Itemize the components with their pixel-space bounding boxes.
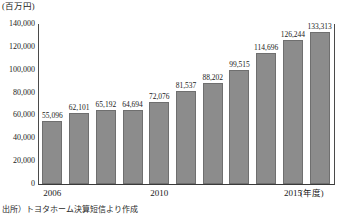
y-axis-tick-label: 20,000: [1, 157, 35, 165]
bar-rect: [256, 53, 276, 184]
bar-item: 126,244: [283, 24, 303, 184]
bar-series: 55,09662,10165,19264,69472,07681,53788,2…: [39, 24, 333, 184]
y-axis-tick-label: 140,000: [1, 20, 35, 28]
bar-rect: [283, 40, 303, 184]
bar-rect: [42, 121, 62, 184]
bar-rect: [203, 83, 223, 184]
bar-item: 55,096: [42, 24, 62, 184]
y-axis-tick-label: 40,000: [1, 134, 35, 142]
bar-item: 62,101: [69, 24, 89, 184]
bar-value-label: 126,244: [281, 31, 305, 39]
bar-value-label: 62,101: [69, 104, 90, 112]
bar-chart-figure: (百万円) 140,000120,000100,00080,00060,0004…: [0, 0, 343, 214]
x-axis-unit-label: (年度): [300, 188, 324, 198]
bar-value-label: 65,192: [96, 101, 117, 109]
y-axis-tick-label: 120,000: [1, 43, 35, 51]
y-axis-tick-label: 0: [1, 180, 35, 188]
bar-value-label: 72,076: [149, 93, 170, 101]
bar-value-label: 64,694: [122, 101, 143, 109]
bar-item: 72,076: [149, 24, 169, 184]
bar-item: 65,192: [96, 24, 116, 184]
bar-item: 81,537: [176, 24, 196, 184]
bar-rect: [69, 113, 89, 184]
y-axis-unit-label: (百万円): [2, 1, 35, 11]
y-axis-tick-label: 60,000: [1, 111, 35, 119]
bar-item: 88,202: [203, 24, 223, 184]
x-axis-tick-label: 2006: [43, 188, 61, 198]
bar-value-label: 81,537: [176, 82, 197, 90]
bar-rect: [149, 102, 169, 184]
bar-item: 114,696: [256, 24, 276, 184]
bar-value-label: 55,096: [42, 112, 63, 120]
bar-item: 133,313: [310, 24, 330, 184]
bar-rect: [96, 110, 116, 185]
bar-item: 64,694: [123, 24, 143, 184]
bar-rect: [123, 110, 143, 184]
bar-value-label: 133,313: [307, 23, 331, 31]
bar-value-label: 99,515: [229, 61, 250, 69]
bar-value-label: 88,202: [202, 74, 223, 82]
bar-rect: [176, 91, 196, 184]
bar-value-label: 114,696: [254, 44, 278, 52]
bar-rect: [229, 70, 249, 184]
x-axis-tick-label: 2010: [150, 188, 168, 198]
bar-rect: [310, 32, 330, 184]
y-axis-tick-label: 100,000: [1, 66, 35, 74]
source-footnote: 出所）トヨタホーム決算短信より作成: [2, 205, 138, 214]
y-axis-tick-label: 80,000: [1, 89, 35, 97]
bar-item: 99,515: [229, 24, 249, 184]
